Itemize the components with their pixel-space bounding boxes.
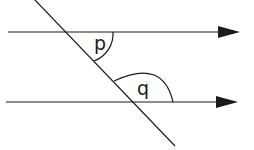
transversal-line — [34, 0, 175, 146]
angle-p-label: p — [94, 32, 106, 54]
bottom-arrowhead-icon — [216, 96, 238, 108]
diagram-canvas: p q — [0, 0, 254, 150]
top-arrowhead-icon — [218, 26, 240, 38]
parallel-lines-diagram: p q — [0, 0, 254, 150]
angle-q-label: q — [137, 77, 149, 99]
